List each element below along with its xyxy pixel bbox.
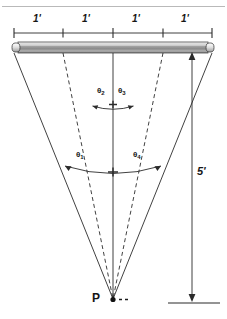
inner-arc-arrowhead-left bbox=[93, 105, 99, 109]
dimension-line-group bbox=[14, 28, 212, 38]
light-fixture-group bbox=[12, 42, 214, 53]
segment-label-3: 1' bbox=[132, 14, 140, 24]
angle-label-theta2: θ2 bbox=[97, 87, 105, 95]
fixture-end-cap-right bbox=[206, 43, 214, 52]
point-p-label: P bbox=[92, 292, 100, 304]
height-dimension-label: 5' bbox=[197, 166, 206, 177]
outer-angle-arc-group bbox=[65, 166, 161, 177]
segment-label-2: 1' bbox=[82, 14, 90, 24]
outer-arc-center-mark bbox=[108, 168, 118, 177]
height-arrowhead-bottom bbox=[189, 294, 196, 302]
segment-label-1: 1' bbox=[33, 14, 41, 24]
point-p-group bbox=[110, 297, 128, 302]
theta3-subscript: 3 bbox=[122, 90, 125, 96]
angle-label-theta1: θ1 bbox=[76, 151, 84, 159]
outer-arc-arrowhead-right bbox=[155, 166, 162, 171]
theta1-subscript: 1 bbox=[80, 154, 83, 160]
diagram-canvas bbox=[0, 0, 227, 319]
theta2-subscript: 2 bbox=[101, 90, 104, 96]
inner-arc-center-mark bbox=[109, 101, 117, 108]
lighting-geometry-diagram: 1' 1' 1' 1' θ2 θ3 θ1 θ4 5' P bbox=[0, 0, 227, 319]
outer-arc-arrowhead-left bbox=[65, 166, 72, 171]
theta4-subscript: 4 bbox=[137, 154, 140, 160]
point-p-dot bbox=[110, 297, 115, 302]
fixture-end-cap-left bbox=[12, 43, 20, 52]
fixture-tube-body bbox=[18, 42, 208, 53]
angle-label-theta3: θ3 bbox=[118, 87, 126, 95]
inner-arc-arrowhead-right bbox=[128, 105, 134, 109]
height-dimension-group bbox=[168, 52, 220, 303]
angle-label-theta4: θ4 bbox=[133, 151, 141, 159]
segment-label-4: 1' bbox=[181, 14, 189, 24]
ray-inner-left bbox=[63, 53, 113, 299]
